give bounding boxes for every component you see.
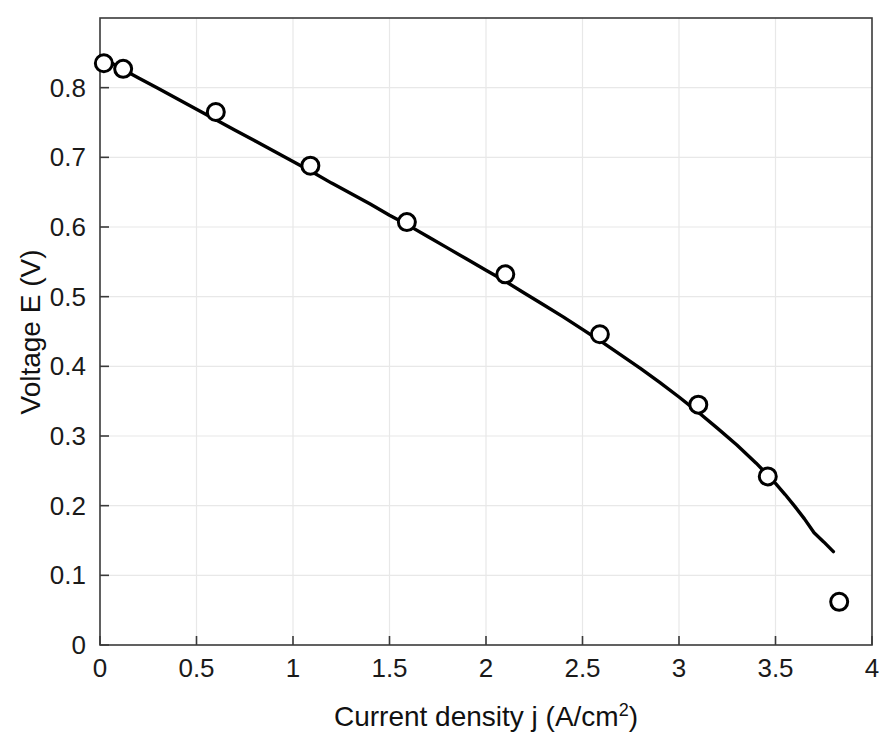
x-tick-label: 0 <box>93 653 107 683</box>
y-tick-label: 0.3 <box>50 421 86 451</box>
data-point-marker <box>398 214 415 231</box>
y-tick-label: 0.5 <box>50 282 86 312</box>
x-tick-label: 2 <box>479 653 493 683</box>
x-tick-label: 2.5 <box>564 653 600 683</box>
data-point-marker <box>115 60 132 77</box>
x-axis-title: Current density j (A/cm2) <box>334 700 638 732</box>
data-point-marker <box>690 396 707 413</box>
iv-curve-chart: 00.511.522.533.54 00.10.20.30.40.50.60.7… <box>0 0 893 747</box>
x-axis-tick-labels: 00.511.522.533.54 <box>93 653 879 683</box>
data-point-marker <box>831 593 848 610</box>
data-point-marker <box>497 266 514 283</box>
y-tick-label: 0 <box>72 630 86 660</box>
y-tick-label: 0.2 <box>50 491 86 521</box>
x-tick-label: 0.5 <box>178 653 214 683</box>
x-tick-label: 3 <box>672 653 686 683</box>
chart-figure: 00.511.522.533.54 00.10.20.30.40.50.60.7… <box>0 0 893 747</box>
x-tick-label: 4 <box>865 653 879 683</box>
x-axis-title-base: Current density j (A/cm <box>334 701 619 732</box>
data-point-marker <box>302 157 319 174</box>
data-point-marker <box>207 104 224 121</box>
x-tick-label: 1 <box>286 653 300 683</box>
y-tick-label: 0.1 <box>50 560 86 590</box>
y-tick-label: 0.6 <box>50 212 86 242</box>
chart-background <box>0 0 893 747</box>
y-tick-label: 0.7 <box>50 142 86 172</box>
y-tick-label: 0.4 <box>50 351 86 381</box>
y-axis-title: Voltage E (V) <box>15 250 46 415</box>
x-axis-title-tail: ) <box>629 701 638 732</box>
data-point-marker <box>591 326 608 343</box>
y-axis-tick-labels: 00.10.20.30.40.50.60.70.8 <box>50 73 86 660</box>
y-tick-label: 0.8 <box>50 73 86 103</box>
data-point-marker <box>759 468 776 485</box>
x-axis-title-superscript: 2 <box>619 700 629 720</box>
data-point-marker <box>95 55 112 72</box>
x-tick-label: 1.5 <box>371 653 407 683</box>
x-tick-label: 3.5 <box>757 653 793 683</box>
